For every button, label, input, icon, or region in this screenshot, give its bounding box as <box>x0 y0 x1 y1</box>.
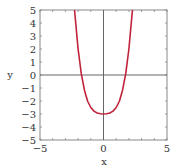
y-tick-label: 1 <box>30 57 36 68</box>
y-tick-label: −2 <box>21 96 36 107</box>
y-tick-label: 5 <box>30 5 36 16</box>
y-tick-label: 0 <box>30 70 36 81</box>
y-tick-label: 2 <box>30 44 36 55</box>
y-tick-label: 3 <box>30 31 36 42</box>
y-axis-label: y <box>6 69 13 80</box>
x-axis-label: x <box>101 156 107 167</box>
plot-container: 543210−1−2−3−4−5−505 x y <box>0 0 174 168</box>
y-tick-label: −4 <box>21 122 36 133</box>
x-tick-label: 5 <box>164 143 170 154</box>
zero-axes <box>40 10 167 140</box>
y-tick-label: −3 <box>21 109 36 120</box>
y-tick-label: 4 <box>30 18 36 29</box>
y-tick-label: −1 <box>21 83 36 94</box>
x-tick-label: 0 <box>100 143 106 154</box>
tick-labels: 543210−1−2−3−4−5−505 <box>21 5 170 155</box>
x-tick-label: −5 <box>33 143 48 154</box>
function-plot: 543210−1−2−3−4−5−505 x y <box>0 0 174 168</box>
